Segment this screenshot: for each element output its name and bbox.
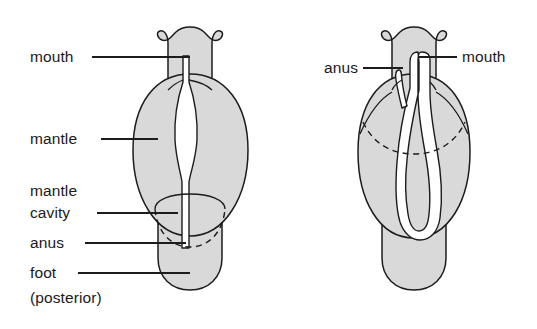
left-diagram-group: mouth mantle mantle cavity anus foot (po… — [30, 27, 248, 306]
label-mantle-cavity-line2: cavity — [30, 204, 70, 221]
label-mantle-cavity-line1: mantle — [30, 182, 77, 199]
label-posterior: (posterior) — [30, 289, 102, 306]
label-mouth: mouth — [30, 48, 74, 65]
label-anus-right: anus — [324, 59, 358, 76]
label-mantle: mantle — [30, 130, 77, 147]
label-foot: foot — [30, 264, 57, 281]
mollusc-torsion-figure: mouth mantle mantle cavity anus foot (po… — [0, 0, 537, 329]
label-anus: anus — [30, 234, 64, 251]
label-mouth-right: mouth — [462, 48, 506, 65]
right-diagram-group: anus mouth — [324, 27, 506, 290]
diagram-canvas: mouth mantle mantle cavity anus foot (po… — [0, 0, 537, 329]
